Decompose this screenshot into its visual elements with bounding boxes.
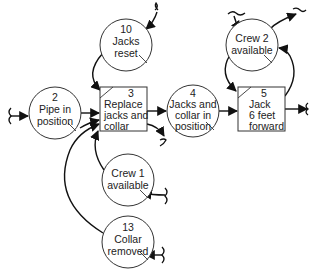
node-a3-replace-jacks-and-collar: 3 Replace jacks and collar bbox=[100, 87, 149, 132]
node-label-line3: collar bbox=[104, 120, 130, 132]
node-a5-jack-6-feet-forward: 5 Jack 6 feet forward bbox=[238, 87, 285, 132]
node-crew2-available: Crew 2 available bbox=[226, 19, 278, 71]
node-label-line1: Collar bbox=[114, 233, 142, 245]
node-label-line1: Jacks bbox=[113, 35, 140, 47]
node-c13-collar-removed: 13 Collar removed bbox=[102, 216, 154, 268]
external-sink-squiggle bbox=[160, 139, 166, 146]
node-c4-jacks-and-collar-in-position: 4 Jacks and collar in position bbox=[167, 85, 219, 137]
node-label-line2: available bbox=[231, 44, 273, 56]
external-sink-squiggle bbox=[293, 8, 306, 11]
node-number: 13 bbox=[122, 221, 134, 233]
node-number: 10 bbox=[120, 23, 132, 35]
external-source-squiggle bbox=[228, 12, 245, 15]
node-number: 2 bbox=[52, 91, 58, 103]
edge-c10-to-a3 bbox=[93, 53, 103, 90]
edge-c2-lower-to-a3 bbox=[80, 120, 99, 128]
node-crew1-available: Crew 1 available bbox=[102, 154, 154, 206]
external-source-squiggle bbox=[155, 3, 158, 10]
node-label-line2: position bbox=[37, 115, 73, 127]
external-source-squiggle bbox=[9, 108, 11, 124]
node-label-line2: removed bbox=[108, 245, 149, 257]
external-source-squiggle bbox=[165, 188, 167, 204]
external-source-squiggle bbox=[162, 247, 164, 263]
edge-crew2-to-external bbox=[270, 14, 296, 29]
node-label-line3: forward bbox=[249, 120, 284, 132]
node-c2-pipe-in-position: 2 Pipe in position bbox=[29, 87, 81, 139]
edge-external-to-c10 bbox=[146, 12, 157, 29]
edge-c13-to-a3 bbox=[65, 124, 103, 233]
node-label-line3: position bbox=[175, 120, 211, 132]
node-c10-jacks-reset: 10 Jacks reset bbox=[100, 19, 152, 71]
node-label-line2: reset bbox=[114, 47, 137, 59]
edge-a3-to-external bbox=[147, 124, 164, 136]
node-label-line1: Crew 1 bbox=[111, 167, 144, 179]
edge-crew1-to-a3 bbox=[95, 131, 104, 170]
node-label-line1: Pipe in bbox=[39, 103, 71, 115]
activity-network-diagram: 10 Jacks reset 2 Pipe in position 3 Repl… bbox=[0, 0, 318, 269]
node-label-line2: available bbox=[107, 179, 149, 191]
node-label-line1: Crew 2 bbox=[235, 32, 268, 44]
